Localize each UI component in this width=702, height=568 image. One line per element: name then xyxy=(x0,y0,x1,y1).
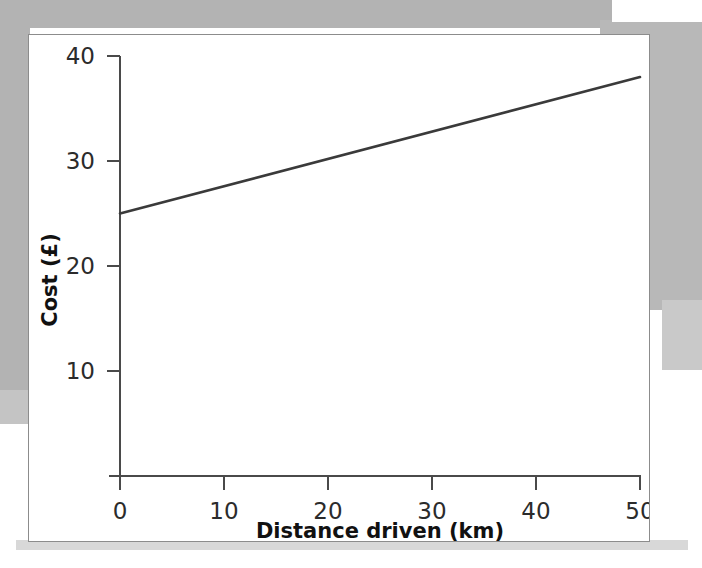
scanned-page: 40 30 20 10 0 10 20 30 40 50 Distance dr… xyxy=(0,0,702,568)
x-axis-ticks xyxy=(120,476,640,490)
y-tick-label-40: 40 xyxy=(66,43,95,69)
page-edge-shadow-right-lower xyxy=(662,300,702,370)
y-tick-label-30: 30 xyxy=(66,148,95,174)
x-tick-label-10: 10 xyxy=(209,498,238,524)
page-edge-shadow-left xyxy=(0,0,30,398)
x-axis-title: Distance driven (km) xyxy=(256,519,504,541)
page-corner-highlight xyxy=(612,0,702,22)
x-tick-label-50: 50 xyxy=(625,498,649,524)
y-tick-label-20: 20 xyxy=(66,253,95,279)
y-axis-ticks xyxy=(107,56,120,371)
figure-panel: 40 30 20 10 0 10 20 30 40 50 Distance dr… xyxy=(28,34,650,542)
page-edge-shadow-top xyxy=(0,0,614,28)
x-tick-label-0: 0 xyxy=(113,498,128,524)
y-axis-title: Cost (£) xyxy=(38,233,62,327)
cost-line-series xyxy=(120,77,640,214)
line-chart: 40 30 20 10 0 10 20 30 40 50 Distance dr… xyxy=(29,35,649,541)
y-axis-tick-labels: 40 30 20 10 xyxy=(66,43,95,384)
x-tick-label-40: 40 xyxy=(521,498,550,524)
y-tick-label-10: 10 xyxy=(66,358,95,384)
